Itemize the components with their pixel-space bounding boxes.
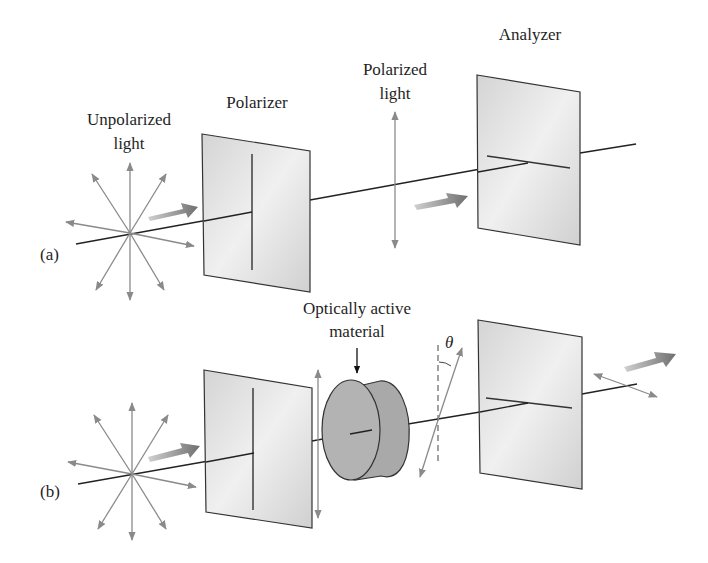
rotated-polarization-down-arrow-icon bbox=[420, 420, 438, 477]
light-ray-a-segment3 bbox=[580, 144, 636, 153]
propagation-arrow-icon bbox=[148, 203, 198, 221]
output-polarization-left-arrow-icon bbox=[594, 374, 622, 384]
optically-active-material bbox=[322, 380, 409, 480]
material-label-line1: Optically active bbox=[303, 299, 411, 318]
material-label-line2: material bbox=[329, 322, 385, 341]
unpolarized-label-line2: light bbox=[113, 134, 144, 153]
polarized-label-line1: Polarized bbox=[363, 60, 428, 79]
polarizer-panel bbox=[202, 134, 310, 292]
polarizer-label: Polarizer bbox=[226, 93, 288, 112]
polarized-label-line2: light bbox=[379, 84, 410, 103]
panel-b: (b) Optically active material bbox=[40, 299, 676, 540]
propagation-arrow-icon bbox=[624, 352, 676, 372]
rotated-polarization-up-arrow-icon bbox=[438, 348, 462, 420]
panel-b-label: (b) bbox=[40, 482, 60, 501]
output-polarization-right-arrow-icon bbox=[622, 384, 657, 397]
analyzer-panel-b bbox=[478, 320, 582, 489]
panel-a: (a) Unpolarized light Polarizer Polarize… bbox=[40, 25, 636, 300]
unpolarized-arrows-icon bbox=[68, 403, 196, 540]
analyzer-panel-a bbox=[477, 75, 580, 245]
rotation-angle-arc bbox=[439, 362, 451, 366]
propagation-arrow-icon bbox=[414, 193, 468, 210]
unpolarized-arrows-icon bbox=[66, 163, 194, 300]
theta-symbol: θ bbox=[445, 333, 453, 352]
polarization-diagram: (a) Unpolarized light Polarizer Polarize… bbox=[0, 0, 708, 563]
polarizer-panel-b bbox=[204, 370, 312, 528]
analyzer-label: Analyzer bbox=[499, 25, 562, 44]
panel-a-label: (a) bbox=[40, 245, 59, 264]
propagation-arrow-icon bbox=[148, 443, 200, 462]
unpolarized-label-line1: Unpolarized bbox=[87, 110, 172, 129]
